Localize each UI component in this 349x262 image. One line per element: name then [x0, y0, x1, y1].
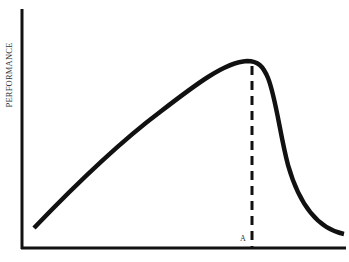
performance-chart [0, 0, 349, 262]
marker-a-label: A [240, 234, 246, 243]
performance-curve [34, 61, 344, 234]
